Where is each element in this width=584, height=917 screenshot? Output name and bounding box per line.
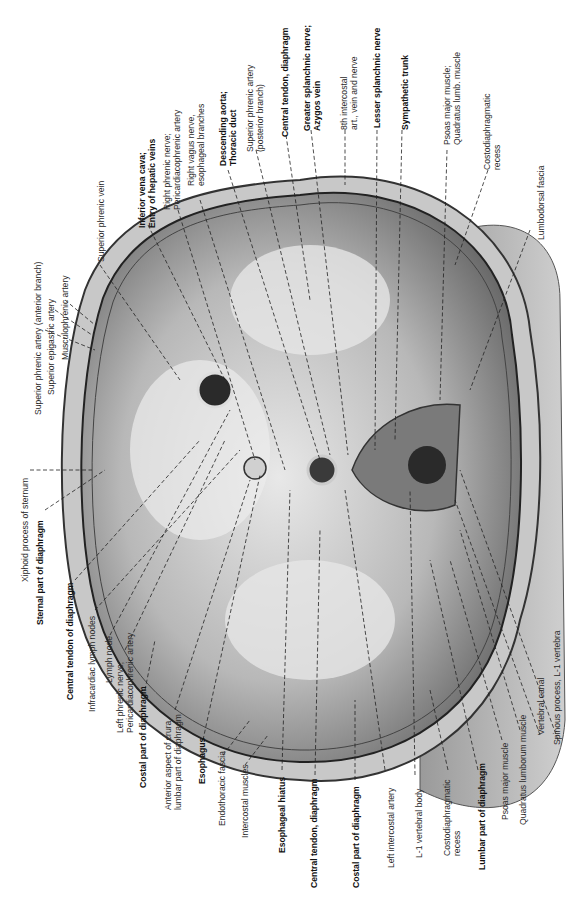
central-tendon-right-leaflet (230, 245, 390, 355)
label-sternal-part: Sternal part of diaphragm (35, 520, 45, 625)
label-left-phrenic-nerve: Left phrenic nerve;Pericardiacophrenic a… (115, 633, 135, 733)
label-xiphoid-process: Xiphoid process of sternum (20, 478, 30, 582)
label-superior-epigastric-artery: Superior epigastric artery (46, 299, 56, 395)
label-costal-part-2: Costal part of diaphragm (351, 786, 361, 888)
label-costodiaphragmatic-recess-top: Costodiaphragmaticrecess (482, 94, 502, 170)
label-psoas-quadratus-top: Psoas major muscle;Quadratus lumb. muscl… (442, 52, 462, 145)
label-right-vagus-nerve: Right vagus nerve,esophageal branches (186, 104, 206, 186)
label-superior-phrenic-artery-posterior: Superior phrenic artery(posterior branch… (245, 65, 265, 152)
label-anterior-aspect-crura: Anterior aspect of crura,lumbar part of … (163, 714, 183, 810)
label-8th-intercostal: 8th intercostalart., vein and nerve (339, 56, 359, 130)
label-sympathetic-trunk: Sympathetic trunk (400, 55, 410, 130)
central-tendon-left-leaflet (225, 560, 395, 680)
label-costal-part-1: Costal part of diaphragm (138, 686, 148, 788)
aorta-opening (308, 456, 336, 484)
label-right-phrenic-nerve: Right phrenic nerve;Pericardiacophrenic … (162, 110, 182, 210)
label-quadratus-lumborum: Quadratus lumborum muscle (518, 715, 528, 825)
label-musculophrenic-artery: Musculophrenic artery (60, 275, 70, 360)
label-esophagus: Esophagus (197, 738, 207, 784)
label-superior-phrenic-artery-anterior: Superior phrenic artery (anterior branch… (33, 262, 43, 415)
label-costodiaphragmatic-recess-bottom: Costodiaphragmaticrecess (442, 780, 462, 856)
inferior-vena-cava-opening (198, 373, 232, 407)
label-greater-splanchnic-nerve: Greater splanchnic nerve;Azygos vein (302, 25, 322, 131)
vertebral-canal-shape (408, 446, 446, 484)
label-psoas-major: Psoas major muscle (500, 743, 510, 820)
label-superior-phrenic-vein: Superior phrenic vein (96, 181, 106, 262)
label-endothoracic-fascia: Endothoracic fascia (217, 751, 227, 826)
diaphragm-illustration: Superior phrenic vein Inferior vena cava… (0, 0, 584, 917)
label-lumbar-part: Lumbar part of diaphragm (477, 763, 487, 870)
esophagus-opening (244, 457, 266, 479)
label-vertebral-canal: Vertebral canal (536, 678, 546, 735)
label-descending-aorta: Descending aorta;Thoracic duct (218, 91, 238, 166)
label-lumbodorsal-fascia: Lumbodorsal fascia (536, 165, 546, 240)
label-l1-vertebral-body: L-1 vertebral body (414, 789, 424, 858)
label-inferior-vena-cava: Inferior vena cava;Entry of hepatic vein… (137, 139, 157, 228)
label-lymph-node: Lymph node (104, 636, 114, 683)
label-central-tendon-of-diaphragm: Central tendon of diaphragm (65, 583, 75, 700)
label-spinous-process: Spinous process, L-1 vertebra (552, 630, 562, 745)
label-lesser-splanchnic-nerve: Lesser splanchnic nerve (372, 28, 382, 128)
label-esophageal-hiatus: Esophageal hiatus (277, 777, 287, 853)
label-central-tendon-top: Central tendon, diaphragm (280, 28, 290, 137)
label-central-tendon-bottom: Central tendon, diaphragm (309, 779, 319, 888)
label-infracardiac-lymph-nodes: Infracardiac lymph nodes (87, 616, 97, 712)
label-left-intercostal-artery: Left intercostal artery (386, 788, 396, 868)
label-intercostal-muscles: Intercostal muscles (240, 764, 250, 838)
